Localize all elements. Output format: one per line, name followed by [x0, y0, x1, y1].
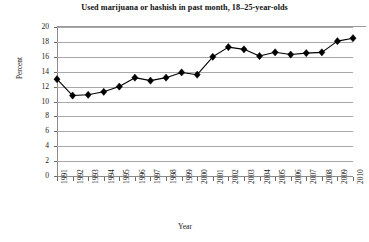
- y-tick-label: 6: [27, 126, 49, 135]
- data-point-marker: [147, 77, 153, 84]
- data-point-marker: [225, 44, 231, 51]
- x-tick-label: 1998: [169, 169, 178, 184]
- x-tick-mark: [322, 177, 323, 181]
- x-tick-mark: [135, 177, 136, 181]
- data-series-layer: [0, 0, 369, 242]
- x-tick-mark: [337, 177, 338, 181]
- data-point-marker: [101, 88, 107, 95]
- x-tick-label: 2000: [200, 169, 209, 184]
- x-tick-mark: [57, 177, 58, 181]
- x-tick-label: 1994: [107, 169, 116, 184]
- x-tick-mark: [244, 177, 245, 181]
- x-tick-mark: [353, 177, 354, 181]
- y-tick-label: 18: [27, 37, 49, 46]
- y-tick-label: 0: [27, 171, 49, 180]
- data-point-marker: [241, 46, 247, 53]
- gridline: [57, 72, 353, 73]
- gridline: [57, 161, 353, 162]
- x-tick-mark: [166, 177, 167, 181]
- x-tick-label: 2002: [231, 169, 240, 184]
- x-tick-mark: [104, 177, 105, 181]
- x-tick-label: 2006: [294, 169, 303, 184]
- x-tick-label: 1991: [60, 169, 69, 184]
- data-point-marker: [319, 49, 325, 56]
- x-tick-mark: [119, 177, 120, 181]
- x-tick-label: 1995: [122, 169, 131, 184]
- x-tick-mark: [228, 177, 229, 181]
- y-tick-mark: [54, 27, 57, 28]
- x-tick-mark: [275, 177, 276, 181]
- gridline: [57, 116, 353, 117]
- y-tick-label: 20: [27, 22, 49, 31]
- x-tick-label: 1992: [76, 169, 85, 184]
- y-tick-mark: [54, 161, 57, 162]
- data-point-marker: [85, 91, 91, 98]
- y-tick-label: 14: [27, 67, 49, 76]
- x-tick-label: 2008: [325, 169, 334, 184]
- gridline: [57, 102, 353, 103]
- data-point-marker: [350, 35, 356, 42]
- gridline: [57, 42, 353, 43]
- y-tick-label: 16: [27, 52, 49, 61]
- x-tick-mark: [260, 177, 261, 181]
- x-axis-title: Year: [150, 222, 220, 231]
- gridline: [57, 27, 353, 28]
- data-point-marker: [272, 49, 278, 56]
- y-axis-title: Percent: [15, 38, 24, 98]
- y-tick-mark: [54, 116, 57, 117]
- y-tick-mark: [54, 102, 57, 103]
- data-point-marker: [69, 92, 75, 99]
- chart-figure: Used marijuana or hashish in past month,…: [0, 0, 369, 242]
- x-tick-label: 2004: [263, 169, 272, 184]
- y-tick-label: 2: [27, 156, 49, 165]
- y-tick-mark: [54, 131, 57, 132]
- x-tick-mark: [291, 177, 292, 181]
- x-tick-mark: [306, 177, 307, 181]
- data-point-marker: [303, 49, 309, 56]
- x-tick-label: 1999: [185, 169, 194, 184]
- x-tick-label: 2010: [356, 169, 365, 184]
- data-point-marker: [163, 74, 169, 81]
- y-tick-label: 10: [27, 97, 49, 106]
- x-tick-mark: [213, 177, 214, 181]
- x-tick-mark: [197, 177, 198, 181]
- x-tick-label: 2005: [278, 169, 287, 184]
- chart-title: Used marijuana or hashish in past month,…: [0, 3, 369, 12]
- gridline: [57, 146, 353, 147]
- x-tick-mark: [73, 177, 74, 181]
- x-tick-mark: [150, 177, 151, 181]
- x-tick-label: 2003: [247, 169, 256, 184]
- x-tick-mark: [182, 177, 183, 181]
- data-point-marker: [132, 74, 138, 81]
- y-tick-label: 8: [27, 111, 49, 120]
- x-tick-mark: [88, 177, 89, 181]
- y-tick-mark: [54, 87, 57, 88]
- x-tick-label: 2009: [340, 169, 349, 184]
- gridline: [57, 87, 353, 88]
- x-tick-label: 2001: [216, 169, 225, 184]
- y-tick-label: 4: [27, 141, 49, 150]
- x-tick-label: 2007: [309, 169, 318, 184]
- x-tick-label: 1997: [153, 169, 162, 184]
- gridline: [57, 57, 353, 58]
- y-tick-label: 12: [27, 82, 49, 91]
- x-tick-label: 1996: [138, 169, 147, 184]
- x-tick-label: 1993: [91, 169, 100, 184]
- y-tick-mark: [54, 146, 57, 147]
- y-tick-mark: [54, 42, 57, 43]
- y-tick-mark: [54, 57, 57, 58]
- gridline: [57, 131, 353, 132]
- y-tick-mark: [54, 72, 57, 73]
